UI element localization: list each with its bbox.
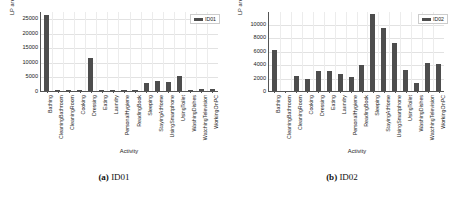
bar: [381, 28, 386, 91]
caption-b: (b) ID02: [228, 172, 456, 182]
x-tick-label: WashingDishes: [192, 95, 197, 132]
bar: [414, 83, 419, 91]
bar: [294, 76, 299, 91]
x-tick-label: Eating: [331, 95, 336, 110]
x-tick-label: Laundry: [114, 95, 119, 114]
bar-slot: [378, 12, 389, 91]
x-tick-label: Bathing: [276, 95, 281, 113]
x-tick-mark: [47, 91, 48, 93]
x-tick-mark: [406, 91, 407, 93]
bar: [349, 77, 354, 91]
x-tick-mark: [58, 91, 59, 93]
x-tick-label: PersonalHygiene: [353, 95, 358, 135]
x-tick-label: Eating: [103, 95, 108, 110]
x-tick-mark: [135, 91, 136, 93]
x-tick-mark: [124, 91, 125, 93]
caption-text-b: ID02: [339, 172, 358, 182]
bar: [166, 82, 171, 91]
bar-slot: [357, 12, 368, 91]
x-tick-mark: [285, 91, 286, 93]
panel-b: LP area 0200040006000800010000 BathingCl…: [228, 0, 456, 201]
y-tick-label: 4000: [254, 62, 266, 68]
x-tick-mark: [274, 91, 275, 93]
bar-slot: [41, 12, 52, 91]
bar: [370, 14, 375, 91]
x-tick-label: ReadingBook: [137, 95, 142, 127]
x-tick-label: Cooking: [309, 95, 314, 114]
x-tick-label: Dressing: [320, 95, 325, 116]
y-tick-label: 5000: [26, 75, 38, 81]
bar: [403, 70, 408, 92]
bar-slot: [85, 12, 96, 91]
bar-slot: [291, 12, 302, 91]
x-tick-label: StayingAtHome: [159, 95, 164, 132]
bar-slot: [324, 12, 335, 91]
x-tick-mark: [417, 91, 418, 93]
x-tick-label: UsingToilet: [408, 95, 413, 121]
bar: [327, 71, 332, 91]
y-tick-label: 10000: [250, 22, 266, 28]
x-tick-mark: [146, 91, 147, 93]
x-tick-label: UsingSmartphone: [397, 95, 402, 137]
x-tick-label: Bathing: [48, 95, 53, 113]
x-tick-mark: [439, 91, 440, 93]
x-tick-label: Laundry: [342, 95, 347, 114]
caption-text-a: ID01: [111, 172, 130, 182]
x-tick-mark: [362, 91, 363, 93]
caption-a: (a) ID01: [0, 172, 228, 182]
bar-slot: [280, 12, 291, 91]
bar-slot: [269, 12, 280, 91]
bar-slot: [367, 12, 378, 91]
bar-slot: [130, 12, 141, 91]
figure-sheet: LP area 0500010000150002000025000 Bathin…: [0, 0, 456, 201]
panel-a: LP area 0500010000150002000025000 Bathin…: [0, 0, 228, 201]
bar: [44, 15, 49, 92]
legend-label-a: ID01: [205, 17, 216, 22]
x-tick-label: WashingDishes: [419, 95, 424, 132]
bar: [155, 81, 160, 91]
x-tick-mark: [168, 91, 169, 93]
x-tick-mark: [102, 91, 103, 93]
x-axis-title-b: Activity: [268, 148, 446, 154]
bar-slot: [302, 12, 313, 91]
bar-slot: [52, 12, 63, 91]
x-tick-label: Cooking: [81, 95, 86, 114]
x-tick-label: Sleeping: [148, 95, 153, 116]
x-tick-mark: [80, 91, 81, 93]
x-tick-mark: [157, 91, 158, 93]
legend-swatch-icon-b: [422, 18, 431, 21]
bar-slot: [163, 12, 174, 91]
y-tick-label: 0: [263, 89, 266, 95]
x-tick-label: UsingSmartphone: [170, 95, 175, 137]
x-tick-mark: [373, 91, 374, 93]
x-tick-label: CleaningBathroom: [59, 95, 64, 139]
bar-slot: [152, 12, 163, 91]
bar-slot: [63, 12, 74, 91]
y-tick-label: 6000: [254, 49, 266, 55]
bar: [144, 83, 149, 91]
x-tick-mark: [212, 91, 213, 93]
y-tick-label: 2000: [254, 76, 266, 82]
legend-swatch-icon-a: [194, 18, 203, 21]
legend-label-b: ID02: [433, 17, 444, 22]
x-tick-label: CleaningRoom: [298, 95, 303, 130]
x-tick-mark: [329, 91, 330, 93]
x-tick-mark: [113, 91, 114, 93]
legend-b: ID02: [418, 14, 448, 24]
bar-slot: [389, 12, 400, 91]
bar: [392, 43, 397, 91]
x-tick-label: WorkingOnPC: [214, 95, 219, 129]
x-tick-marks-b: [269, 91, 444, 93]
x-axis-labels-a: BathingCleaningBathroomCleaningRoomCooki…: [40, 95, 218, 147]
y-tick-label: 25000: [22, 16, 38, 22]
bar-slot: [118, 12, 129, 91]
x-tick-mark: [296, 91, 297, 93]
x-tick-label: CleaningRoom: [70, 95, 75, 130]
y-tick-label: 15000: [22, 46, 38, 52]
x-tick-marks-a: [41, 91, 218, 93]
bar-slot: [335, 12, 346, 91]
caption-label-b: (b): [326, 172, 337, 182]
x-tick-label: ReadingBook: [364, 95, 369, 127]
bar-slot: [400, 12, 411, 91]
x-tick-mark: [179, 91, 180, 93]
